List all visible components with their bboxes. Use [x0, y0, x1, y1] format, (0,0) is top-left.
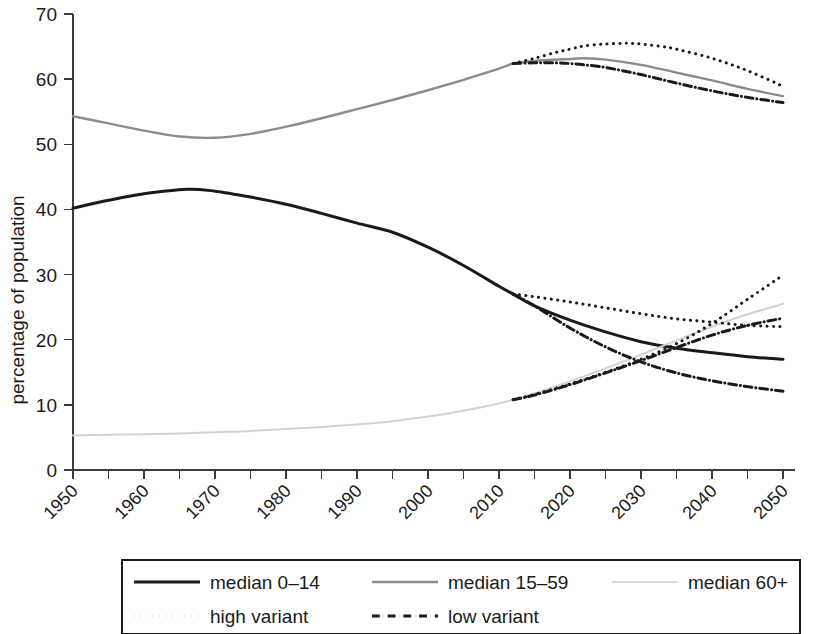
series-line-median-0-14	[73, 189, 783, 359]
legend-label: median 15–59	[448, 572, 568, 593]
y-axis-title: percentage of population	[7, 195, 28, 404]
y-tick-label: 70	[36, 4, 57, 25]
chart-legend: median 0–14median 15–59median 60+high va…	[122, 560, 800, 634]
x-tick-label: 1960	[110, 481, 152, 523]
x-tick-label: 2010	[465, 481, 507, 523]
x-axis: 1950196019701980199020002010202020302040…	[39, 470, 795, 523]
legend-label: median 0–14	[210, 572, 320, 593]
x-tick-label: 2000	[394, 481, 436, 523]
series-line-low-variant-15-59	[513, 63, 783, 103]
legend-label: high variant	[210, 606, 309, 627]
y-axis-title-text: percentage of population	[7, 195, 28, 404]
series-line-high-variant-15-59	[513, 43, 783, 86]
series-lines	[73, 43, 783, 435]
y-axis: 010203040506070	[36, 4, 73, 481]
y-tick-label: 50	[36, 134, 57, 155]
x-tick-label: 2050	[749, 481, 791, 523]
y-tick-label: 10	[36, 395, 57, 416]
y-tick-label: 60	[36, 69, 57, 90]
series-line-median-15-59	[73, 58, 783, 138]
x-tick-label: 1980	[252, 481, 294, 523]
x-tick-label: 1990	[323, 481, 365, 523]
series-line-high-variant-60-	[513, 275, 783, 399]
y-tick-label: 0	[46, 460, 57, 481]
x-tick-label: 2040	[678, 481, 720, 523]
x-tick-label: 1970	[181, 481, 223, 523]
figure-container: percentage of population 010203040506070…	[0, 0, 814, 634]
x-tick-label: 2030	[607, 481, 649, 523]
y-tick-label: 40	[36, 199, 57, 220]
series-line-median-60-	[73, 304, 783, 436]
population-percentage-line-chart: percentage of population 010203040506070…	[0, 0, 814, 634]
legend-label: low variant	[448, 606, 540, 627]
x-tick-label: 2020	[536, 481, 578, 523]
y-tick-label: 20	[36, 330, 57, 351]
legend-label: median 60+	[688, 572, 788, 593]
series-line-high-variant-0-14	[513, 294, 783, 327]
x-tick-label: 1950	[39, 481, 81, 523]
y-tick-label: 30	[36, 265, 57, 286]
